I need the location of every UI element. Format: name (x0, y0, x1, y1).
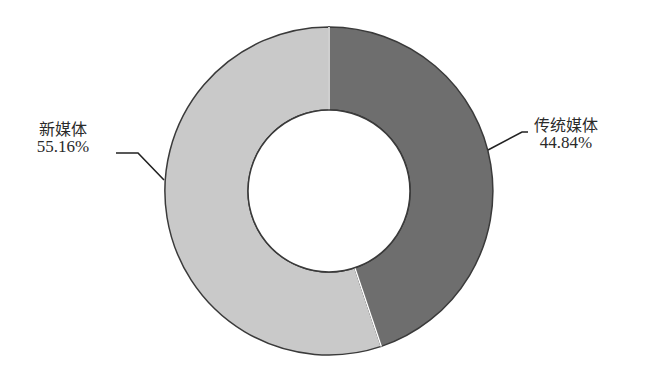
label-new-media: 新媒体 55.16% (18, 121, 108, 155)
label-traditional-media: 传统媒体 44.84% (518, 117, 614, 151)
label-traditional-percent: 44.84% (518, 134, 614, 151)
label-new-percent: 55.16% (18, 138, 108, 155)
label-new-name: 新媒体 (18, 121, 108, 138)
leader-line-new (116, 153, 164, 180)
donut-chart (0, 0, 647, 377)
donut-hole (248, 110, 410, 272)
label-traditional-name: 传统媒体 (518, 117, 614, 134)
